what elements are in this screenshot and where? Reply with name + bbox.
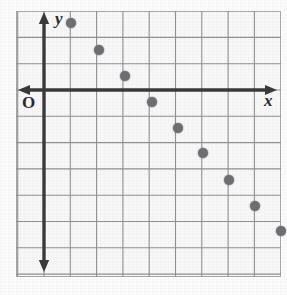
scatter-plot-figure: y x O bbox=[0, 0, 287, 295]
x-axis-label: x bbox=[264, 92, 273, 109]
axis-labels-layer: y x O bbox=[0, 0, 287, 295]
y-axis-label: y bbox=[55, 10, 63, 27]
origin-label: O bbox=[22, 94, 35, 111]
